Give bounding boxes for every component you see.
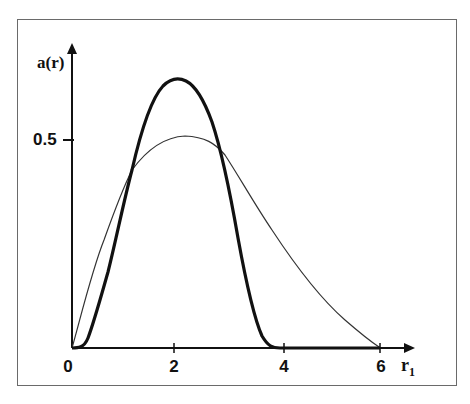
thick-curve-series [72, 79, 380, 348]
x-axis-label-main: r [401, 355, 409, 375]
x-axis-label-subscript: 1 [409, 365, 415, 379]
x-tick-label-2: 2 [169, 357, 178, 377]
y-axis-arrow-icon [67, 43, 77, 54]
y-tick-label-0.5: 0.5 [33, 130, 57, 150]
chart-plot-area [0, 0, 470, 404]
y-axis-label: a(r) [37, 53, 64, 73]
x-tick-label-0: 0 [63, 357, 72, 377]
x-axis-label: r1 [401, 355, 415, 380]
x-tick-label-4: 4 [279, 357, 288, 377]
x-tick-label-6: 6 [376, 357, 385, 377]
x-axis-arrow-icon [404, 343, 415, 353]
